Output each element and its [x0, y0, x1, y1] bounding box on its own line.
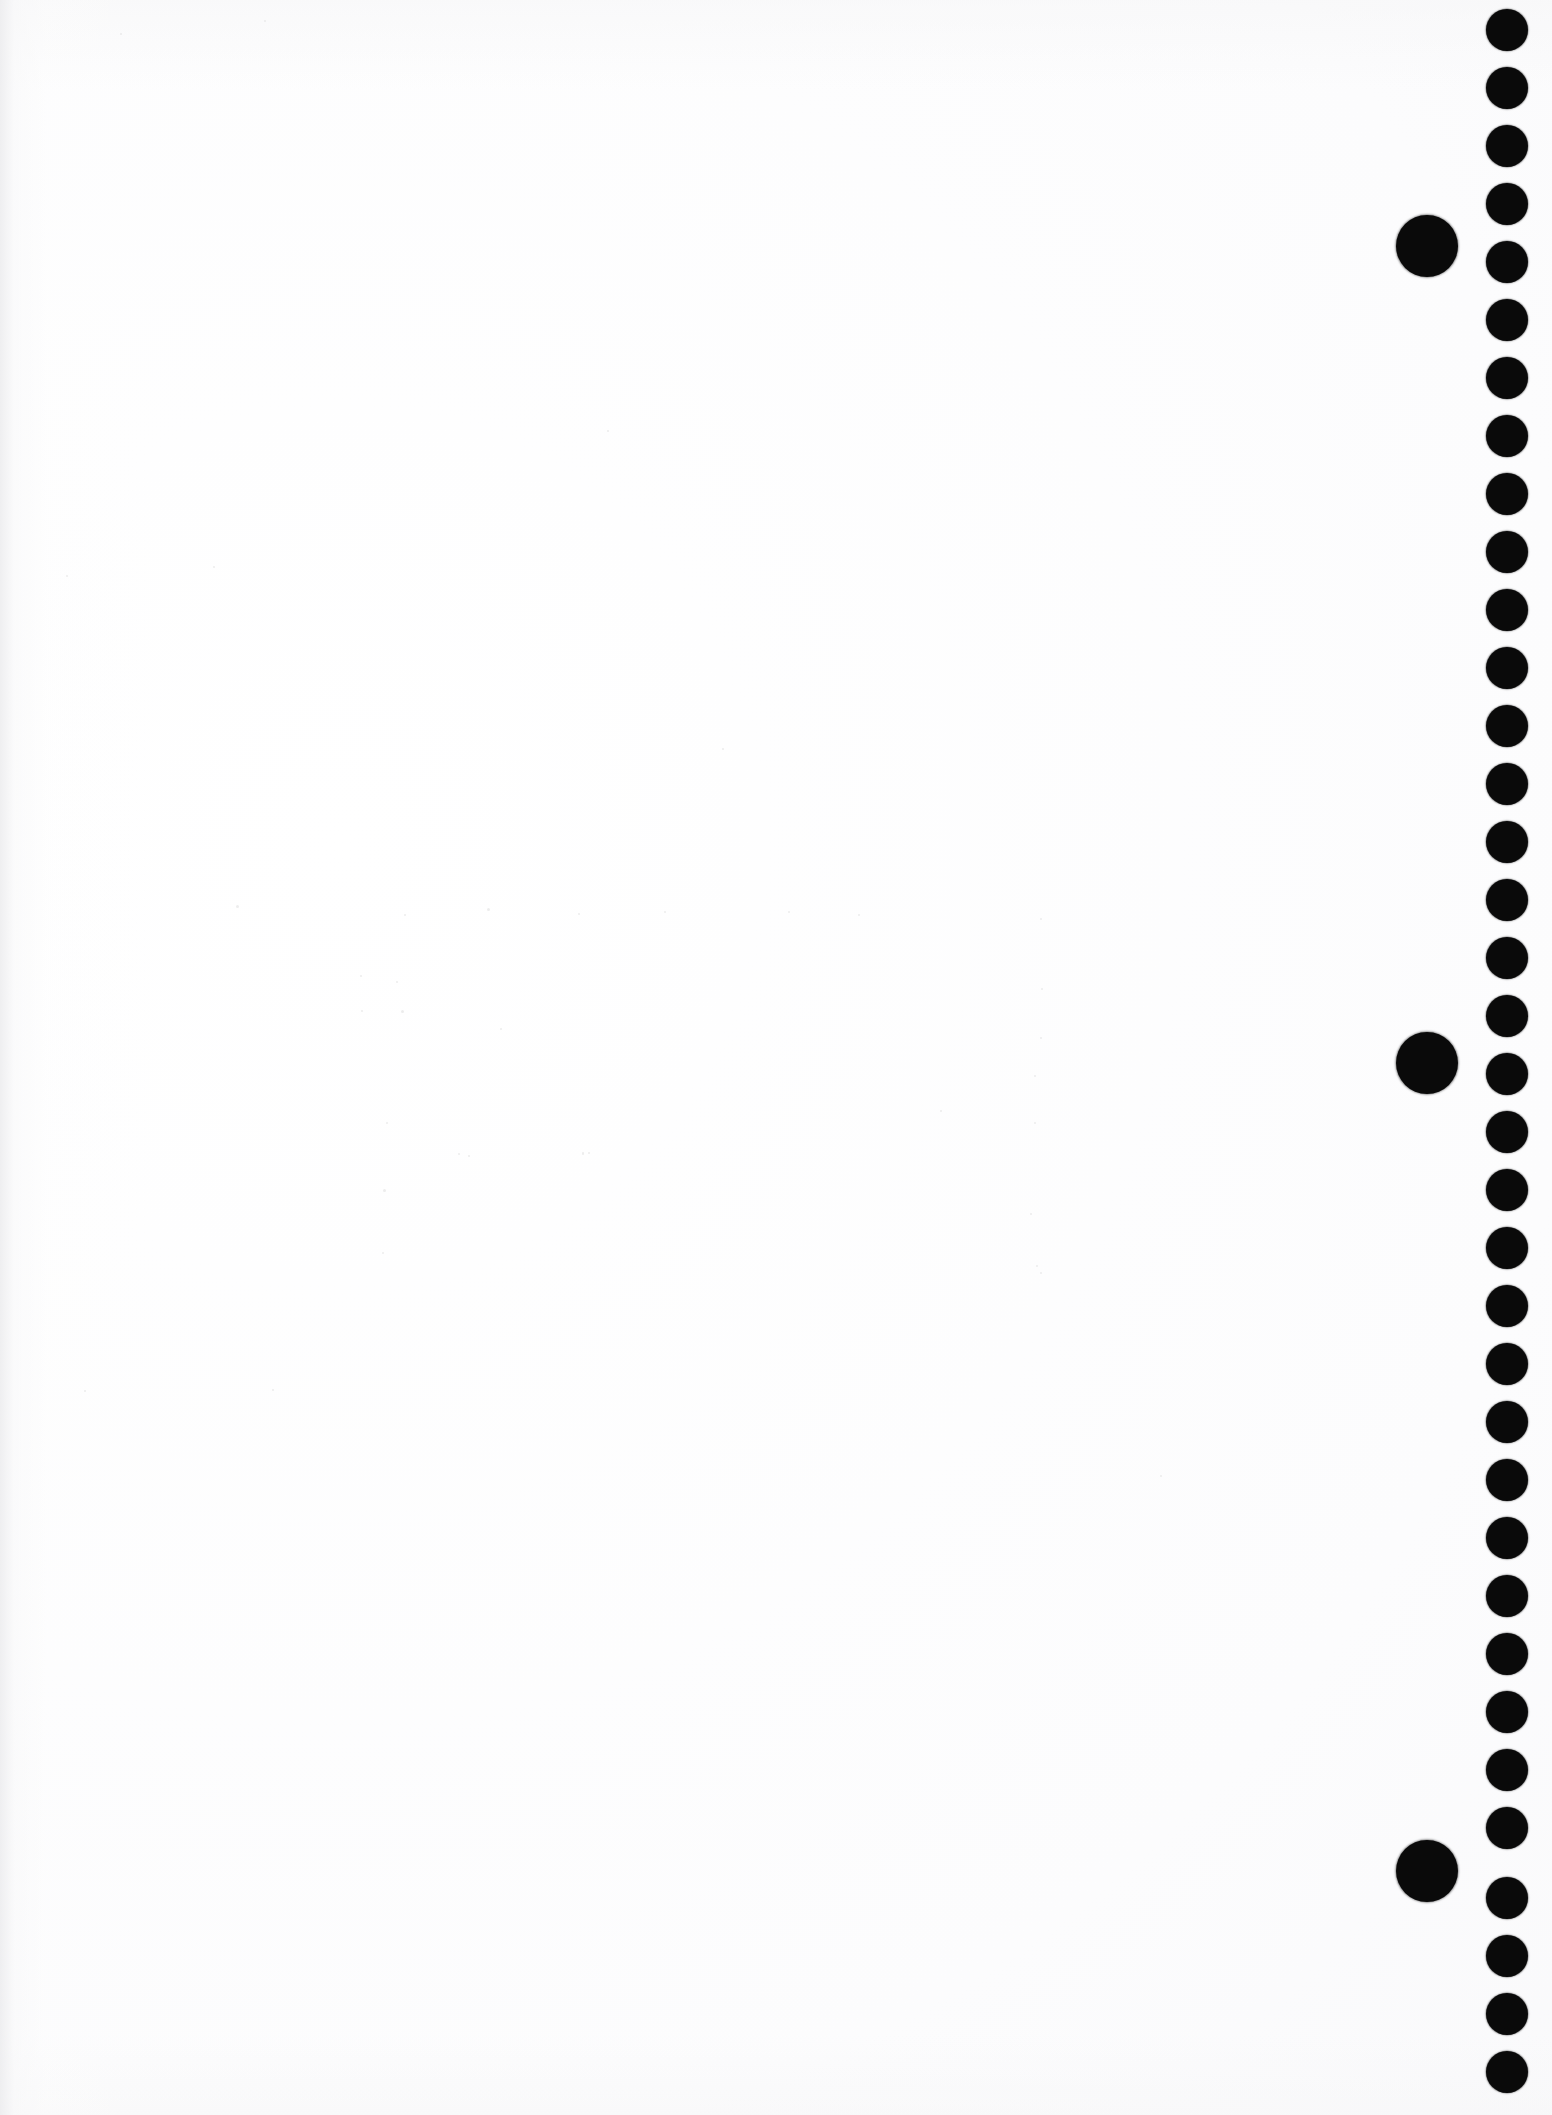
register-dot	[1486, 1053, 1528, 1095]
register-dot	[1486, 589, 1528, 631]
register-dot	[1486, 415, 1528, 457]
register-dot	[1486, 125, 1528, 167]
register-dot	[1486, 1401, 1528, 1443]
register-dot	[1486, 1517, 1528, 1559]
register-dot	[1486, 1691, 1528, 1733]
register-dot	[1486, 1343, 1528, 1385]
register-dot	[1486, 299, 1528, 341]
register-dot	[1486, 879, 1528, 921]
register-dot	[1486, 1935, 1528, 1977]
index-dot	[1396, 1840, 1458, 1902]
register-dot	[1486, 647, 1528, 689]
register-dot	[1486, 241, 1528, 283]
register-dot	[1486, 357, 1528, 399]
index-dot	[1396, 1032, 1458, 1094]
scanned-page: Blank scanned sheet; right margin carrie…	[0, 0, 1552, 2115]
register-dot	[1486, 705, 1528, 747]
register-dot	[1486, 821, 1528, 863]
register-dot	[1486, 67, 1528, 109]
register-dot	[1486, 1807, 1528, 1849]
register-dot	[1486, 2051, 1528, 2093]
register-dot	[1486, 473, 1528, 515]
margin-dot-column	[0, 0, 1552, 2115]
register-dot	[1486, 1285, 1528, 1327]
register-dot	[1486, 763, 1528, 805]
register-dot	[1486, 1169, 1528, 1211]
register-dot	[1486, 1575, 1528, 1617]
register-dot	[1486, 1749, 1528, 1791]
register-dot	[1486, 1111, 1528, 1153]
register-dot	[1486, 1227, 1528, 1269]
register-dot	[1486, 1993, 1528, 2035]
register-dot	[1486, 9, 1528, 51]
register-dot	[1486, 937, 1528, 979]
index-dot	[1396, 215, 1458, 277]
register-dot	[1486, 1459, 1528, 1501]
register-dot	[1486, 531, 1528, 573]
register-dot	[1486, 1877, 1528, 1919]
register-dot	[1486, 1633, 1528, 1675]
register-dot	[1486, 995, 1528, 1037]
register-dot	[1486, 183, 1528, 225]
